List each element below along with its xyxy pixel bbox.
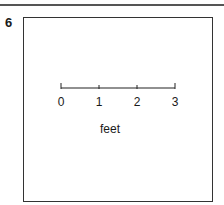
unit-label: feet — [100, 122, 120, 136]
tick-label-0: 0 — [55, 95, 67, 109]
scale-bar — [0, 0, 224, 205]
tick-label-1: 1 — [93, 95, 105, 109]
tick-label-3: 3 — [169, 95, 181, 109]
tick-label-2: 2 — [131, 95, 143, 109]
